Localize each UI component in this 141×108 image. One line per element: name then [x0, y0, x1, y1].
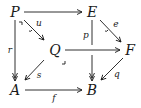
label-f: f — [52, 94, 55, 103]
label-e: e — [113, 20, 118, 29]
mono-tail-e — [105, 30, 108, 31]
node-q: Q — [49, 43, 60, 57]
node-a: A — [10, 83, 20, 97]
pullback-corner-q — [62, 61, 65, 64]
pullback-corner-p — [19, 22, 22, 25]
node-p: P — [10, 5, 19, 19]
node-e: E — [87, 5, 97, 19]
commutative-diagram: P E Q F A B u r e p s q f — [0, 0, 141, 108]
label-q: q — [114, 70, 120, 79]
node-f: F — [125, 43, 135, 57]
label-s: s — [37, 71, 42, 80]
label-p: p — [83, 31, 89, 40]
diagram-arrows — [0, 0, 141, 108]
label-r: r — [8, 46, 12, 55]
label-u: u — [36, 19, 42, 28]
node-b: B — [87, 83, 97, 97]
mono-tail-u — [29, 30, 32, 31]
